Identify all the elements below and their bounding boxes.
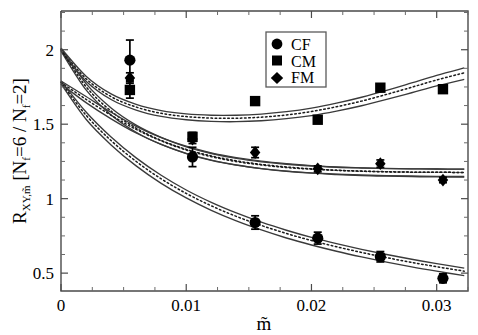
svg-text:RXY,m̃ [Nf=6 / Nf=2]: RXY,m̃ [Nf=6 / Nf=2] [9,78,32,224]
x-axis-title: m̃ [257,313,272,334]
square-icon [272,56,282,66]
data-marker-square [375,83,385,93]
data-marker-circle [312,233,323,244]
circle-icon [272,39,283,50]
y-axis-title-sub: XY,m̃ [20,185,32,211]
figure-container: 00.010.020.030.511.52 m̃ RXY,m̃ [Nf=6 / … [0,0,478,335]
data-marker-circle [187,151,198,162]
x-tick-label: 0.03 [422,296,452,315]
data-marker-circle [124,55,135,66]
legend-label-fm: FM [291,69,314,86]
data-marker-circle [375,251,386,262]
data-marker-square [125,85,135,95]
y-axis-title-eq6: =6 / N [9,108,30,157]
data-marker-square [250,96,260,106]
legend[interactable]: CF CM FM [266,32,326,87]
y-tick-label: 1 [46,190,55,209]
legend-label-cm: CM [291,53,316,70]
y-axis-title-open: [N [9,160,30,180]
data-marker-circle [437,273,448,284]
y-tick-label: 1.5 [33,115,54,134]
data-marker-circle [250,217,261,228]
plot-canvas: 00.010.020.030.511.52 m̃ RXY,m̃ [Nf=6 / … [0,0,478,335]
x-axis-title-text: m̃ [257,313,272,334]
data-marker-square [313,115,323,125]
data-marker-square [438,84,448,94]
x-tick-label: 0.01 [171,296,201,315]
plot-background [61,11,468,291]
x-tick-label: 0.02 [297,296,327,315]
y-axis-title: RXY,m̃ [Nf=6 / Nf=2] [9,78,32,224]
legend-label-cf: CF [291,36,311,53]
y-axis-title-eq2: =2] [9,78,30,105]
y-axis-title-r: R [9,211,30,224]
y-tick-label: 2 [46,41,55,60]
y-tick-label: 0.5 [33,264,54,283]
x-tick-label: 0 [57,296,66,315]
